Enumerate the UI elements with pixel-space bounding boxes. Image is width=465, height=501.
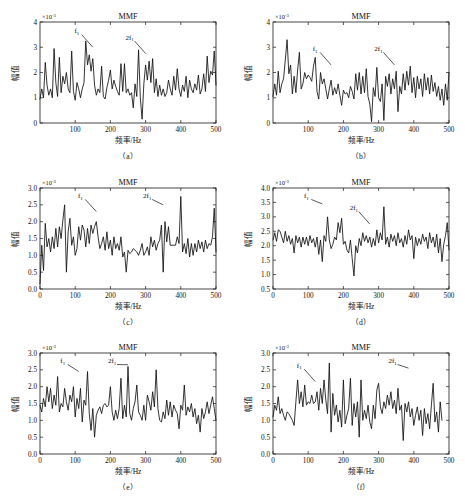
annotation-leader-line <box>135 41 146 54</box>
chart-panel-e: 01002003004005000.00.51.01.52.02.53.0×10… <box>0 331 232 498</box>
annotation-leader-line <box>85 200 96 212</box>
x-tick-label: 100 <box>303 126 314 134</box>
plot-title: MMF <box>351 12 371 21</box>
axis-exponent-label: ×10-3 <box>42 179 57 186</box>
annotation-label-f1: f1 <box>297 362 302 371</box>
plot-frame <box>273 22 449 123</box>
x-tick-label: 0 <box>38 457 42 465</box>
x-tick-label: 400 <box>408 126 419 134</box>
x-tick-label: 200 <box>105 457 116 465</box>
y-tick-label: 3.0 <box>28 185 37 193</box>
annotation-leader-line <box>82 35 93 48</box>
y-axis-label: 幅值 <box>243 231 253 247</box>
y-tick-label: 0.0 <box>261 451 270 459</box>
x-tick-label: 200 <box>105 292 116 300</box>
y-tick-label: 3.0 <box>261 350 270 358</box>
plot-title: MMF <box>351 343 371 352</box>
plot-title: MMF <box>118 12 138 21</box>
y-tick-label: 4.0 <box>261 185 270 193</box>
chart-panel-b: 10020030040050001234×10-3MMF频率/Hz幅值f12f1… <box>233 0 465 167</box>
x-tick-label: 500 <box>211 457 222 465</box>
x-axis-label: 频率/Hz <box>115 135 143 145</box>
x-tick-label: 400 <box>175 457 186 465</box>
y-tick-label: 1.5 <box>28 400 37 408</box>
y-tick-label: 1.0 <box>261 271 270 279</box>
annotation-label-f1: f1 <box>304 192 309 201</box>
annotation-leader-line <box>398 365 409 369</box>
y-tick-label: 2.5 <box>28 201 37 209</box>
axis-exponent-label: ×10-3 <box>275 13 290 20</box>
y-tick-label: 2 <box>266 69 270 77</box>
plot-title: MMF <box>118 178 138 187</box>
chart-panel-d: 01002003004005000.51.01.52.02.53.03.54.0… <box>233 166 465 333</box>
x-tick-label: 100 <box>303 292 314 300</box>
x-tick-label: 200 <box>105 126 116 134</box>
annotation-label-f1: f1 <box>74 27 79 36</box>
spectrum-trace <box>40 366 216 437</box>
annotation-leader-line <box>68 365 79 372</box>
annotation-label-2f1: 2f1 <box>374 45 383 54</box>
y-tick-label: 1.5 <box>261 400 270 408</box>
y-tick-label: 3.0 <box>28 350 37 358</box>
x-tick-label: 500 <box>211 292 222 300</box>
y-tick-label: 1.5 <box>261 257 270 265</box>
y-tick-label: 3.0 <box>261 213 270 221</box>
y-axis-label: 幅值 <box>10 65 20 81</box>
annotation-label-2f1: 2f1 <box>350 204 359 213</box>
y-axis-label: 幅值 <box>10 396 20 412</box>
x-tick-label: 200 <box>338 457 349 465</box>
annotation-leader-line <box>152 200 163 205</box>
y-tick-label: 2.5 <box>261 228 270 236</box>
x-tick-label: 200 <box>338 126 349 134</box>
x-tick-label: 400 <box>175 292 186 300</box>
y-tick-label: 4 <box>266 19 270 27</box>
y-axis-label: 幅值 <box>243 65 253 81</box>
panel-caption-e: （e） <box>118 483 137 492</box>
y-tick-label: 1.0 <box>261 417 270 425</box>
plot-frame <box>40 188 216 289</box>
y-tick-label: 2.0 <box>28 218 37 226</box>
y-tick-label: 0.5 <box>261 434 270 442</box>
annotation-leader-line <box>383 52 394 65</box>
x-tick-label: 0 <box>271 457 275 465</box>
x-tick-label: 300 <box>140 292 151 300</box>
plot-title: MMF <box>351 178 371 187</box>
figure-container: 10020030040050001234×10-3MMF频率/Hz幅值f12f1… <box>0 0 465 501</box>
y-tick-label: 1 <box>266 94 270 102</box>
spectrum-trace <box>273 40 449 122</box>
x-axis-label: 频率/Hz <box>348 466 376 476</box>
y-tick-label: 3.5 <box>261 199 270 207</box>
panel-caption-b: （b） <box>351 152 371 161</box>
annotation-label-f1: f1 <box>78 192 83 201</box>
x-tick-label: 100 <box>70 457 81 465</box>
y-tick-label: 1.0 <box>28 252 37 260</box>
spectrum-trace <box>40 196 216 284</box>
x-tick-label: 500 <box>211 126 222 134</box>
x-tick-label: 300 <box>373 457 384 465</box>
plot-title: MMF <box>118 343 138 352</box>
y-tick-label: 0.5 <box>28 434 37 442</box>
y-tick-label: 0 <box>33 120 37 128</box>
x-tick-label: 400 <box>408 457 419 465</box>
y-tick-label: 2.0 <box>261 242 270 250</box>
x-axis-label: 频率/Hz <box>348 135 376 145</box>
x-tick-label: 300 <box>373 292 384 300</box>
x-tick-label: 300 <box>140 457 151 465</box>
chart-panel-f: 01002003004005000.00.51.01.52.02.53.0×10… <box>233 331 465 498</box>
y-tick-label: 2.0 <box>28 383 37 391</box>
annotation-leader-line <box>311 200 322 204</box>
axis-exponent-label: ×10-3 <box>275 344 290 351</box>
spectrum-trace <box>273 363 442 440</box>
y-tick-label: 0.0 <box>28 286 37 294</box>
chart-panel-c: 01002003004005000.00.51.01.52.02.53.0×10… <box>0 166 232 333</box>
axis-exponent-label: ×10-3 <box>42 13 57 20</box>
x-tick-label: 100 <box>70 292 81 300</box>
y-tick-label: 1.0 <box>28 417 37 425</box>
x-tick-label: 100 <box>70 126 81 134</box>
x-tick-label: 500 <box>444 457 455 465</box>
spectrum-trace <box>40 41 216 119</box>
y-tick-label: 0 <box>266 120 270 128</box>
y-tick-label: 4 <box>33 19 37 27</box>
annotation-leader-line <box>320 52 331 65</box>
annotation-label-f1: f1 <box>60 357 65 366</box>
